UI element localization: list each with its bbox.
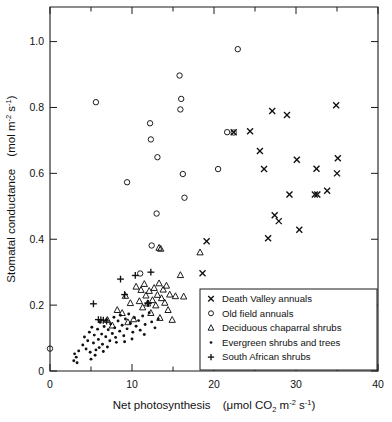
x-axis-unit-mol: mol CO: [233, 399, 272, 411]
marker-dot: [104, 335, 107, 338]
marker-dot: [72, 359, 75, 362]
marker-dot: [111, 332, 114, 335]
x-tick-label: 40: [372, 378, 384, 390]
marker-dot: [88, 331, 91, 334]
marker-dot: [131, 338, 134, 341]
marker-triangle: [122, 292, 128, 298]
marker-dot: [121, 324, 124, 327]
marker-triangle: [133, 283, 139, 289]
marker-circle: [179, 96, 184, 101]
marker-dot: [89, 351, 92, 354]
marker-circle: [155, 155, 160, 160]
marker-dot: [81, 344, 84, 347]
marker-dot: [94, 354, 97, 357]
x-axis-unit-m-sup: -2: [289, 398, 296, 407]
x-axis-unit-s-sup: -1: [305, 398, 312, 407]
marker-dot: [118, 330, 121, 333]
marker-triangle: [160, 286, 166, 292]
y-tick-label: 0.8: [29, 101, 44, 113]
legend-item: South African shrubs: [208, 351, 311, 362]
marker-circle: [154, 211, 159, 216]
marker-dot: [107, 328, 110, 331]
marker-dot: [150, 320, 153, 323]
marker-dot: [135, 325, 138, 328]
marker-dot: [106, 346, 109, 349]
marker-dot: [117, 319, 120, 322]
marker-dot: [77, 349, 80, 352]
series-evergreen-shrubs-and-trees: [72, 302, 159, 364]
series-south-african-shrubs: [90, 269, 154, 325]
y-tick-label: 0.2: [29, 299, 44, 311]
marker-dot: [92, 342, 95, 345]
legend-item-label: Old field annuals: [222, 308, 294, 319]
y-tick-label: 0.4: [29, 233, 44, 245]
marker-dot: [73, 352, 76, 355]
marker-dot: [97, 338, 100, 341]
legend-item-label: Death Valley annuals: [222, 293, 312, 304]
x-axis-unit-close: ): [311, 399, 315, 411]
marker-dot: [210, 341, 213, 344]
marker-dot: [103, 325, 106, 328]
marker-triangle: [156, 280, 162, 286]
x-tick-label: 10: [126, 378, 138, 390]
marker-dot: [137, 319, 140, 322]
marker-circle: [180, 171, 185, 176]
marker-triangle: [136, 298, 142, 304]
marker-triangle: [157, 315, 163, 321]
marker-circle: [224, 129, 229, 134]
marker-circle: [177, 73, 182, 78]
y-axis-unit-s: s: [5, 106, 17, 115]
marker-circle: [235, 46, 240, 51]
marker-dot: [131, 331, 134, 334]
legend: Death Valley annualsOld field annualsDec…: [200, 289, 377, 370]
legend-item-label: Deciduous chaparral shrubs: [222, 322, 342, 333]
marker-dot: [101, 343, 104, 346]
y-tick-label: 1.0: [29, 35, 44, 47]
y-axis-unit-s-sup: -1: [4, 99, 13, 106]
marker-dot: [122, 334, 125, 337]
marker-circle: [149, 243, 154, 248]
marker-triangle: [167, 291, 173, 297]
marker-dot: [123, 340, 126, 343]
marker-dot: [114, 336, 117, 339]
marker-circle: [124, 180, 129, 185]
marker-triangle: [163, 282, 169, 288]
marker-dot: [83, 336, 86, 339]
y-tick-label: 0: [38, 365, 44, 377]
marker-triangle: [177, 272, 183, 278]
x-axis-unit-m: m: [276, 399, 289, 411]
marker-dot: [90, 326, 93, 329]
marker-circle: [178, 107, 183, 112]
marker-dot: [76, 361, 79, 364]
marker-dot: [90, 358, 93, 361]
marker-circle: [93, 100, 98, 105]
y-axis-unit-close: ): [5, 95, 17, 99]
marker-triangle: [181, 293, 187, 299]
marker-dot: [100, 333, 103, 336]
marker-dot: [143, 333, 146, 336]
marker-triangle: [141, 281, 147, 287]
marker-circle: [147, 121, 152, 126]
marker-dot: [98, 346, 101, 349]
svg-text:Net photosynthesis (μm: Net photosynthesis (μmol CO2 m-2 s-1): [113, 398, 316, 414]
plot-canvas: 01020304000.20.40.60.81.0 Net photosynth…: [0, 0, 392, 422]
marker-dot: [139, 329, 142, 332]
scatter-plot-figure: 01020304000.20.40.60.81.0 Net photosynth…: [0, 0, 392, 422]
marker-dot: [94, 348, 97, 351]
marker-circle: [138, 271, 143, 276]
legend-item-label: South African shrubs: [222, 351, 311, 362]
legend-item: Evergreen shrubs and trees: [210, 337, 341, 348]
legend-item-label: Evergreen shrubs and trees: [222, 337, 341, 348]
marker-dot: [124, 318, 127, 321]
marker-dot: [85, 347, 88, 350]
x-axis-title-main: Net photosynthesis: [113, 399, 211, 411]
svg-text:Stomatal conductance (: Stomatal conductance (mol m-2 s-1): [4, 95, 17, 282]
legend-item: Old field annuals: [209, 308, 294, 319]
y-axis-title-main: Stomatal conductance: [5, 169, 17, 283]
marker-dot: [75, 356, 78, 359]
marker-dot: [154, 326, 157, 329]
marker-circle: [182, 195, 187, 200]
marker-dot: [102, 350, 105, 353]
y-axis-title: Stomatal conductance (mol m-2 s-1): [4, 95, 17, 282]
y-tick-label: 0.6: [29, 167, 44, 179]
